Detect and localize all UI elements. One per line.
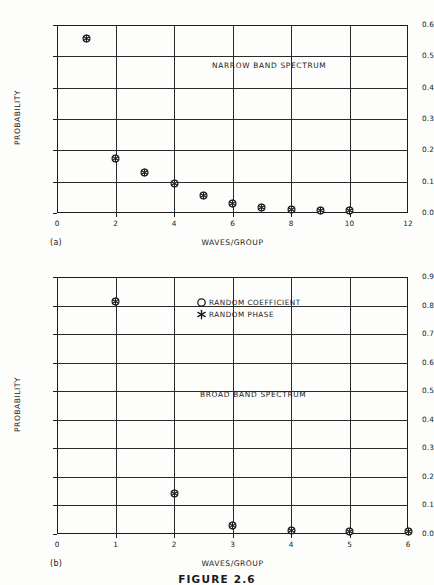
legend-label-random-coefficient: RANDOM COEFFICIENT [209,298,301,307]
x-axis-title-a: WAVES/GROUP [57,238,408,247]
data-point-marker [287,526,296,535]
data-point-marker [345,206,354,215]
data-point-marker [199,191,208,200]
x-tick-mark [174,213,175,217]
y-axis-title-a: PROBABILITY [13,83,22,153]
y-tick-mark [53,277,57,278]
data-point-marker [140,168,149,177]
y-tick-mark [53,505,57,506]
asterisk-icon [196,309,209,320]
y-tick-label: 0.2 [386,147,434,154]
x-tick-mark [233,534,234,538]
y-tick-mark [53,363,57,364]
annotation-narrow-band-spectrum: NARROW BAND SPECTRUM [212,61,326,70]
y-tick-mark [53,182,57,183]
figure-page: 0.00.10.20.30.40.50.6 024681012 PROBABIL… [0,0,434,585]
legend-label-random-phase: RANDOM PHASE [209,310,274,319]
y-tick-mark [53,119,57,120]
x-tick-label: 10 [345,220,354,227]
data-point-marker [82,34,91,43]
panel-label-b: (b) [50,559,62,568]
chart-legend: RANDOM COEFFICIENT RANDOM PHASE [196,297,301,321]
legend-entry-random-coefficient: RANDOM COEFFICIENT [196,297,301,308]
panel-label-a: (a) [50,238,62,247]
y-tick-mark [53,56,57,57]
data-point-marker [228,199,237,208]
x-tick-label: 4 [289,541,294,548]
x-tick-label: 1 [113,541,118,548]
data-point-marker [228,521,237,530]
x-tick-label: 0 [55,541,60,548]
x-tick-mark [233,213,234,217]
gridline-vertical [116,25,117,213]
data-point-marker [170,489,179,498]
y-tick-mark [53,306,57,307]
y-tick-mark [53,150,57,151]
y-tick-label: 0.1 [386,502,434,509]
chart-panel-a: 0.00.10.20.30.40.50.6 024681012 PROBABIL… [0,0,434,255]
data-point-marker [111,297,120,306]
x-tick-label: 3 [230,541,235,548]
gridline-vertical [350,25,351,213]
x-tick-label: 2 [113,220,118,227]
y-tick-label: 0.3 [386,115,434,122]
gridline-vertical [291,25,292,213]
x-tick-label: 12 [403,220,412,227]
x-tick-mark [174,534,175,538]
y-tick-mark [53,477,57,478]
x-tick-label: 8 [289,220,294,227]
y-tick-label: 0.9 [386,273,434,280]
data-point-marker [111,154,120,163]
x-tick-mark [116,534,117,538]
data-point-marker [287,205,296,214]
chart-panel-b: 0.00.10.20.30.40.50.60.70.80.9 0123456 P… [0,255,434,585]
y-tick-mark [53,391,57,392]
y-tick-label: 0.7 [386,330,434,337]
y-tick-label: 0.5 [386,53,434,60]
data-point-marker [170,179,179,188]
y-tick-label: 0.4 [386,416,434,423]
annotation-broad-band-spectrum: BROAD BAND SPECTRUM [200,390,306,399]
figure-caption: FIGURE 2.6 [0,573,434,585]
data-point-marker [404,527,413,536]
open-circle-icon [196,297,209,308]
y-tick-mark [53,213,57,214]
x-tick-label: 6 [230,220,235,227]
y-tick-label: 0.0 [386,209,434,216]
gridline-vertical [233,25,234,213]
y-tick-label: 0.1 [386,178,434,185]
legend-entry-random-phase: RANDOM PHASE [196,309,301,320]
gridline-vertical [350,277,351,534]
x-tick-label: 6 [406,541,411,548]
y-tick-mark [53,534,57,535]
y-tick-label: 0.5 [386,388,434,395]
x-tick-label: 2 [172,541,177,548]
x-tick-label: 0 [55,220,60,227]
y-axis-title-b: PROBABILITY [13,369,22,439]
y-tick-label: 0.8 [386,302,434,309]
y-tick-label: 0.6 [386,359,434,366]
x-tick-mark [116,213,117,217]
y-tick-label: 0.2 [386,473,434,480]
y-tick-mark [53,334,57,335]
y-tick-label: 0.4 [386,84,434,91]
gridline-vertical [116,277,117,534]
data-point-marker [345,527,354,536]
y-tick-mark [53,25,57,26]
x-axis-title-b: WAVES/GROUP [57,559,408,568]
x-tick-label: 5 [347,541,352,548]
y-tick-mark [53,88,57,89]
y-tick-label: 0.3 [386,445,434,452]
y-tick-mark [53,448,57,449]
data-point-marker [257,203,266,212]
data-point-marker [316,206,325,215]
x-tick-label: 4 [172,220,177,227]
y-tick-mark [53,420,57,421]
y-tick-label: 0.6 [386,21,434,28]
